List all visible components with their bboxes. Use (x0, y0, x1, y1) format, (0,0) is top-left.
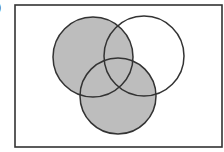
venn-figure: ) (0, 0, 224, 152)
venn-diagram (0, 0, 224, 152)
